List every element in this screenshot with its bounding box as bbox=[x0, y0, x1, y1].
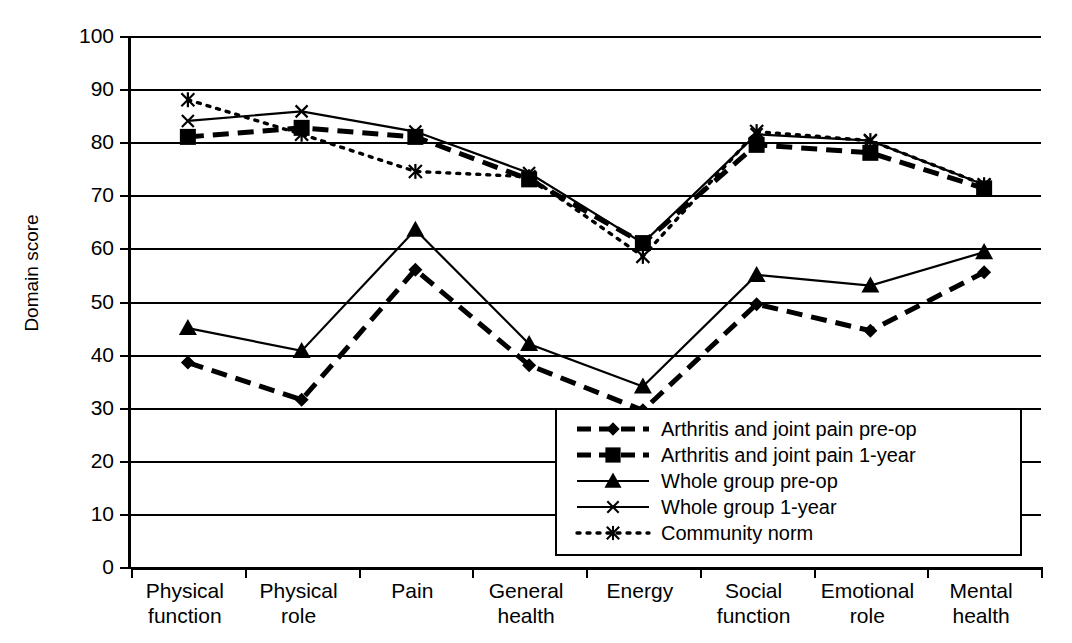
legend-symbol-square bbox=[571, 442, 655, 468]
y-axis-tick-label: 10 bbox=[56, 503, 114, 524]
y-tick-mark bbox=[120, 248, 131, 250]
x-axis-label: Mentalhealth bbox=[906, 578, 1056, 628]
legend-label: Whole group 1-year bbox=[655, 496, 837, 518]
y-axis-title: Domain score bbox=[21, 153, 43, 393]
legend-item[interactable]: Arthritis and joint pain 1-year bbox=[557, 442, 1020, 468]
x-tick-mark bbox=[586, 567, 588, 578]
x-tick-mark bbox=[814, 567, 816, 578]
data-point-triangle bbox=[179, 319, 197, 335]
y-tick-mark bbox=[120, 408, 131, 410]
chart-legend: Arthritis and joint pain pre-opArthritis… bbox=[555, 408, 1022, 556]
x-tick-mark bbox=[700, 567, 702, 578]
x-axis-label-line: role bbox=[224, 603, 374, 628]
x-tick-mark bbox=[1041, 567, 1043, 578]
data-point-star bbox=[181, 92, 194, 107]
data-point-diamond bbox=[606, 422, 619, 435]
y-tick-mark bbox=[120, 195, 131, 197]
y-axis-tick-label: 0 bbox=[56, 556, 114, 577]
data-point-diamond bbox=[863, 324, 877, 338]
legend-item[interactable]: Whole group pre-op bbox=[557, 468, 1020, 494]
y-axis-tick-label: 50 bbox=[56, 291, 114, 312]
data-point-triangle bbox=[406, 221, 424, 237]
y-tick-mark bbox=[120, 567, 131, 569]
series-3 bbox=[179, 221, 993, 394]
x-tick-mark bbox=[472, 567, 474, 578]
y-tick-mark bbox=[120, 89, 131, 91]
y-axis-tick-label: 100 bbox=[56, 25, 114, 46]
legend-item[interactable]: Community norm bbox=[557, 520, 1020, 546]
x-tick-mark bbox=[359, 567, 361, 578]
data-point-square bbox=[605, 447, 620, 462]
series-line bbox=[188, 230, 984, 387]
data-point-triangle bbox=[975, 243, 993, 259]
y-tick-mark bbox=[120, 142, 131, 144]
series-5 bbox=[181, 92, 990, 264]
data-point-diamond bbox=[181, 356, 195, 370]
y-axis-tick-label: 60 bbox=[56, 237, 114, 258]
y-tick-mark bbox=[120, 36, 131, 38]
y-axis-tick-label: 70 bbox=[56, 184, 114, 205]
x-tick-mark bbox=[131, 567, 133, 578]
x-axis-label-line: health bbox=[906, 603, 1056, 628]
y-tick-mark bbox=[120, 461, 131, 463]
legend-item[interactable]: Arthritis and joint pain pre-op bbox=[557, 416, 1020, 442]
y-tick-mark bbox=[120, 302, 131, 304]
y-tick-mark bbox=[120, 355, 131, 357]
x-tick-mark bbox=[245, 567, 247, 578]
y-axis-tick-label: 80 bbox=[56, 131, 114, 152]
data-point-star bbox=[636, 249, 649, 264]
data-point-triangle bbox=[748, 266, 766, 282]
y-axis-tick-label: 30 bbox=[56, 397, 114, 418]
legend-symbol-cross bbox=[571, 494, 655, 520]
legend-symbol-star bbox=[571, 520, 655, 546]
y-tick-mark bbox=[120, 514, 131, 516]
legend-label: Community norm bbox=[655, 522, 813, 544]
y-axis-tick-label: 20 bbox=[56, 450, 114, 471]
data-point-square bbox=[180, 129, 196, 145]
chart-figure: Domain score 0102030405060708090100 Phys… bbox=[0, 0, 1072, 643]
legend-symbol-diamond bbox=[571, 416, 655, 442]
legend-symbol-triangle bbox=[571, 468, 655, 494]
legend-label: Arthritis and joint pain 1-year bbox=[655, 444, 916, 466]
x-axis-label-line: Mental bbox=[906, 578, 1056, 603]
y-axis-tick-label: 40 bbox=[56, 344, 114, 365]
x-axis-label-line: health bbox=[451, 603, 601, 628]
y-axis-tick-label: 90 bbox=[56, 78, 114, 99]
x-tick-mark bbox=[927, 567, 929, 578]
legend-item[interactable]: Whole group 1-year bbox=[557, 494, 1020, 520]
legend-label: Whole group pre-op bbox=[655, 470, 838, 492]
data-point-star bbox=[750, 124, 763, 139]
legend-label: Arthritis and joint pain pre-op bbox=[655, 418, 917, 440]
